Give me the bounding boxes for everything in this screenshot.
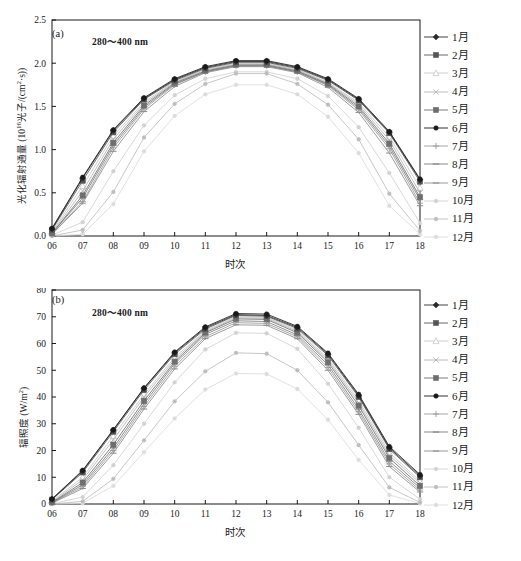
x-tick-label: 06 bbox=[47, 509, 57, 519]
x-tick-label: 08 bbox=[109, 241, 119, 251]
legend-item-2月[interactable]: 2月 bbox=[424, 314, 519, 332]
legend-marker-icon bbox=[424, 390, 448, 402]
legend-marker-icon bbox=[424, 231, 448, 243]
legend-label: 2月 bbox=[452, 50, 469, 61]
y-tick-label: 50 bbox=[37, 366, 47, 376]
y-tick-label: 70 bbox=[37, 312, 47, 322]
legend-item-9月[interactable]: 9月 bbox=[424, 442, 519, 460]
x-tick-label: 11 bbox=[201, 509, 210, 519]
legend-label: 4月 bbox=[452, 86, 469, 97]
legend-item-7月[interactable]: 7月 bbox=[424, 137, 519, 155]
x-tick-label: 08 bbox=[109, 509, 119, 519]
yaxis-text-a2: 光子/(cm bbox=[17, 85, 27, 122]
x-tick-label: 07 bbox=[78, 241, 88, 251]
yaxis-exp-a: 16 bbox=[15, 122, 23, 129]
legend-item-8月[interactable]: 8月 bbox=[424, 155, 519, 173]
x-tick-label: 16 bbox=[354, 241, 364, 251]
legend-marker-icon bbox=[424, 67, 448, 79]
legend-item-12月[interactable]: 12月 bbox=[424, 228, 519, 246]
legend-marker-icon bbox=[424, 299, 448, 311]
legend-item-11月[interactable]: 11月 bbox=[424, 210, 519, 228]
legend-item-4月[interactable]: 4月 bbox=[424, 351, 519, 369]
legend-marker-icon bbox=[424, 408, 448, 420]
yaxis-text-b2: ) bbox=[19, 387, 29, 390]
x-tick-label: 09 bbox=[139, 509, 149, 519]
x-tick-label: 13 bbox=[262, 509, 272, 519]
y-tick-label: 2.5 bbox=[34, 15, 46, 25]
legend-marker-icon bbox=[424, 463, 448, 475]
series-9月 bbox=[49, 67, 423, 235]
yaxis-exp-a2: 2 bbox=[15, 81, 23, 85]
legend-marker-icon bbox=[424, 445, 448, 457]
legend-marker-icon bbox=[424, 195, 448, 207]
y-tick-label: 1.5 bbox=[34, 102, 46, 112]
legend-item-9月[interactable]: 9月 bbox=[424, 174, 519, 192]
legend-item-1月[interactable]: 1月 bbox=[424, 28, 519, 46]
legend-marker-icon bbox=[424, 354, 448, 366]
legend-item-4月[interactable]: 4月 bbox=[424, 83, 519, 101]
legend-label: 12月 bbox=[452, 500, 474, 511]
legend-marker-icon bbox=[424, 372, 448, 384]
legend-marker-icon bbox=[424, 140, 448, 152]
legend-label: 1月 bbox=[452, 300, 469, 311]
legend-item-5月[interactable]: 5月 bbox=[424, 101, 519, 119]
series-7月 bbox=[49, 320, 423, 506]
panel-a-xaxis-title: 时次 bbox=[205, 256, 265, 271]
legend-item-1月[interactable]: 1月 bbox=[424, 296, 519, 314]
panel-a-legend: 1月2月3月4月5月6月7月8月9月10月11月12月 bbox=[424, 28, 519, 246]
legend-label: 1月 bbox=[452, 32, 469, 43]
yaxis-text-a: 光化辐射通量 (10 bbox=[17, 129, 27, 204]
legend-label: 3月 bbox=[452, 336, 469, 347]
x-tick-label: 17 bbox=[385, 509, 395, 519]
y-tick-label: 10 bbox=[37, 473, 47, 483]
yaxis-exp-b: 2 bbox=[17, 390, 25, 394]
legend-marker-icon bbox=[424, 31, 448, 43]
legend-marker-icon bbox=[424, 213, 448, 225]
legend-label: 10月 bbox=[452, 463, 474, 474]
y-tick-label: 60 bbox=[37, 339, 47, 349]
legend-label: 5月 bbox=[452, 372, 469, 383]
x-tick-label: 13 bbox=[262, 241, 272, 251]
y-tick-label: 30 bbox=[37, 419, 47, 429]
x-tick-label: 10 bbox=[170, 509, 180, 519]
legend-item-10月[interactable]: 10月 bbox=[424, 460, 519, 478]
panel-b-legend: 1月2月3月4月5月6月7月8月9月10月11月12月 bbox=[424, 296, 519, 514]
panel-a-yaxis-title: 光化辐射通量 (1016光子/(cm2·s)) bbox=[14, 68, 28, 204]
x-tick-label: 12 bbox=[231, 509, 241, 519]
y-tick-label: 1.0 bbox=[34, 145, 46, 155]
panel-a-annotation: 280～400 nm bbox=[92, 34, 148, 48]
x-tick-label: 15 bbox=[323, 241, 333, 251]
legend-marker-icon bbox=[424, 177, 448, 189]
legend-label: 2月 bbox=[452, 318, 469, 329]
x-tick-label: 06 bbox=[47, 241, 57, 251]
chart-panel-b: 0102030405060708006070809101112131415161… bbox=[0, 288, 521, 560]
legend-item-8月[interactable]: 8月 bbox=[424, 423, 519, 441]
legend-label: 7月 bbox=[452, 141, 469, 152]
legend-label: 6月 bbox=[452, 391, 469, 402]
legend-label: 11月 bbox=[452, 213, 474, 224]
legend-item-10月[interactable]: 10月 bbox=[424, 192, 519, 210]
legend-marker-icon bbox=[424, 426, 448, 438]
legend-item-11月[interactable]: 11月 bbox=[424, 478, 519, 496]
legend-item-6月[interactable]: 6月 bbox=[424, 119, 519, 137]
legend-item-3月[interactable]: 3月 bbox=[424, 332, 519, 350]
legend-label: 8月 bbox=[452, 427, 469, 438]
legend-item-5月[interactable]: 5月 bbox=[424, 369, 519, 387]
legend-label: 9月 bbox=[452, 445, 469, 456]
y-tick-label: 80 bbox=[37, 288, 47, 295]
x-tick-label: 14 bbox=[293, 241, 303, 251]
x-tick-label: 14 bbox=[293, 509, 303, 519]
panel-b-yaxis-title: 辐照度 (W/m2) bbox=[16, 387, 30, 448]
chart-panel-a: 0.00.51.01.52.02.50607080910111213141516… bbox=[0, 4, 521, 276]
legend-item-7月[interactable]: 7月 bbox=[424, 405, 519, 423]
legend-item-6月[interactable]: 6月 bbox=[424, 387, 519, 405]
x-tick-label: 11 bbox=[201, 241, 210, 251]
legend-item-12月[interactable]: 12月 bbox=[424, 496, 519, 514]
legend-item-2月[interactable]: 2月 bbox=[424, 46, 519, 64]
legend-label: 5月 bbox=[452, 104, 469, 115]
legend-marker-icon bbox=[424, 317, 448, 329]
legend-item-3月[interactable]: 3月 bbox=[424, 64, 519, 82]
y-tick-label: 0.5 bbox=[34, 188, 46, 198]
x-tick-label: 15 bbox=[323, 509, 333, 519]
legend-marker-icon bbox=[424, 499, 448, 511]
